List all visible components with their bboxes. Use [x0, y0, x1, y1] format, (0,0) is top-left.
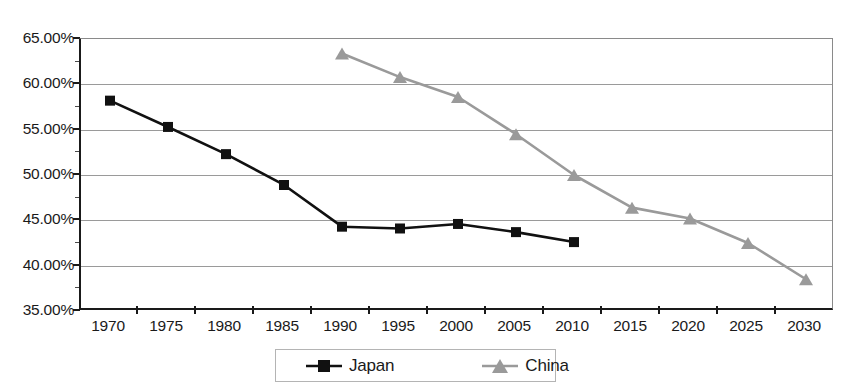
data-point-marker[interactable]	[451, 91, 465, 103]
legend-label-japan: Japan	[349, 357, 394, 375]
y-tick-label: 45.00%	[2, 211, 74, 227]
x-tick-label: 2025	[729, 318, 763, 334]
x-tick-mark	[136, 306, 138, 314]
line-chart: 65.00%60.00%55.00%50.00%45.00%40.00%35.0…	[0, 0, 844, 387]
legend-marker-square-icon	[304, 357, 344, 375]
data-point-marker[interactable]	[511, 227, 521, 237]
x-tick-label: 1970	[91, 318, 125, 334]
x-axis: 1970197519801985199019952000200520102015…	[79, 314, 833, 342]
x-tick-mark	[426, 306, 428, 314]
y-tick-label: 65.00%	[2, 30, 74, 46]
x-tick-label: 2000	[439, 318, 473, 334]
x-tick-label: 2015	[613, 318, 647, 334]
data-point-marker[interactable]	[221, 149, 231, 159]
data-point-marker[interactable]	[335, 48, 349, 60]
x-tick-label: 1980	[207, 318, 241, 334]
plot-area	[79, 38, 833, 310]
series-line	[110, 101, 574, 242]
x-tick-label: 1995	[381, 318, 415, 334]
x-tick-mark	[484, 306, 486, 314]
x-tick-mark	[716, 306, 718, 314]
x-tick-mark	[658, 306, 660, 314]
series-layer	[81, 39, 835, 311]
x-tick-label: 2020	[671, 318, 705, 334]
data-point-marker[interactable]	[337, 222, 347, 232]
x-tick-label: 2030	[787, 318, 821, 334]
x-tick-mark	[194, 306, 196, 314]
y-tick-label: 35.00%	[2, 302, 74, 318]
data-point-marker[interactable]	[453, 219, 463, 229]
legend-item-japan[interactable]: Japan	[304, 350, 394, 381]
x-tick-mark	[252, 306, 254, 314]
y-tick-label: 55.00%	[2, 121, 74, 137]
x-tick-label: 1985	[265, 318, 299, 334]
x-tick-label: 1975	[149, 318, 183, 334]
x-tick-mark	[368, 306, 370, 314]
data-point-marker[interactable]	[105, 96, 115, 106]
y-tick-label: 50.00%	[2, 166, 74, 182]
y-tick-label: 60.00%	[2, 75, 74, 91]
x-tick-label: 2010	[555, 318, 589, 334]
legend-label-china: China	[525, 357, 568, 375]
series-japan	[105, 96, 579, 247]
data-point-marker[interactable]	[741, 237, 755, 249]
data-point-marker[interactable]	[163, 122, 173, 132]
x-tick-label: 2005	[497, 318, 531, 334]
y-axis: 65.00%60.00%55.00%50.00%45.00%40.00%35.0…	[0, 0, 74, 387]
chart-legend: Japan China	[275, 349, 556, 382]
series-china	[335, 48, 813, 286]
y-tick-label: 40.00%	[2, 257, 74, 273]
x-tick-mark	[542, 306, 544, 314]
data-point-marker[interactable]	[395, 223, 405, 233]
x-tick-mark	[310, 306, 312, 314]
legend-item-china[interactable]: China	[480, 350, 568, 381]
data-point-marker[interactable]	[279, 180, 289, 190]
legend-marker-triangle-icon	[480, 357, 520, 375]
x-tick-label: 1990	[323, 318, 357, 334]
x-tick-mark	[774, 306, 776, 314]
data-point-marker[interactable]	[393, 71, 407, 83]
data-point-marker[interactable]	[569, 237, 579, 247]
x-tick-mark	[600, 306, 602, 314]
